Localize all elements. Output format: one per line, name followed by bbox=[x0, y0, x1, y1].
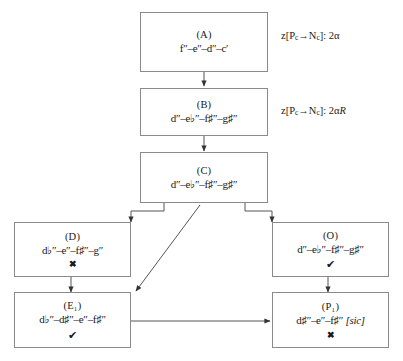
annot-2-arrow: →N bbox=[298, 105, 316, 116]
node-b-formula: d″–e♭″–f♯″–g♯″ bbox=[171, 112, 237, 126]
node-e1-formula: d♭″–d♯″–e″–f♯″ bbox=[39, 313, 105, 327]
node-e1[interactable]: (E₁) d♭″–d♯″–e″–f♯″ ✔ bbox=[14, 292, 131, 348]
node-p1-status-mark: ✖ bbox=[327, 331, 335, 340]
annot-1-prefix: z[P bbox=[281, 30, 295, 41]
node-p1[interactable]: (P₁) d♯″–e″–f♯″ [sic] ✖ bbox=[272, 292, 389, 348]
node-e1-status-mark: ✔ bbox=[68, 330, 77, 341]
diagram-canvas: (A) f″–e″–d″–c′ (B) d″–e♭″–f♯″–g♯″ (C) d… bbox=[0, 0, 403, 361]
annotation-z-pc-nc-2alpha: z[Pc→Nc]: 2α bbox=[281, 30, 340, 41]
node-o-status-mark: ✔ bbox=[326, 259, 335, 270]
annot-2-subscript-1: c bbox=[295, 108, 298, 117]
node-a-formula: f″–e″–d″–c′ bbox=[180, 42, 228, 56]
edge-c-to-e1 bbox=[136, 205, 200, 291]
annot-2-italic-suffix: R bbox=[340, 105, 346, 116]
node-p1-sic-annotation: [sic] bbox=[345, 314, 364, 326]
annotation-z-pc-nc-2alpha-r: z[Pc→Nc]: 2αR bbox=[281, 105, 346, 116]
node-p1-formula: d♯″–e″–f♯″ bbox=[296, 314, 343, 326]
node-p1-formula-line: d♯″–e″–f♯″ [sic] bbox=[296, 314, 365, 328]
node-d-status-mark: ✖ bbox=[69, 260, 77, 269]
node-b[interactable]: (B) d″–e♭″–f♯″–g♯″ bbox=[140, 88, 268, 136]
node-o-label: (O) bbox=[323, 229, 338, 242]
node-c-label: (C) bbox=[197, 164, 212, 177]
annot-1-arrow: →N bbox=[298, 30, 316, 41]
node-a[interactable]: (A) f″–e″–d″–c′ bbox=[140, 12, 268, 72]
annot-1-suffix: ]: 2α bbox=[320, 30, 340, 41]
node-o-formula: d″–e♭″–f♯″–g♯″ bbox=[297, 243, 363, 257]
node-b-label: (B) bbox=[197, 98, 212, 111]
node-d[interactable]: (D) d♭″–e″–f♯″–g″ ✖ bbox=[14, 222, 131, 277]
node-c[interactable]: (C) d″–e♭″–f♯″–g♯″ bbox=[140, 152, 268, 203]
node-d-formula: d♭″–e″–f♯″–g″ bbox=[42, 244, 103, 258]
edge-c-to-o bbox=[245, 203, 272, 222]
edge-c-to-d bbox=[131, 203, 164, 222]
annot-1-subscript-1: c bbox=[295, 33, 298, 42]
node-p1-label: (P₁) bbox=[322, 300, 339, 313]
node-o[interactable]: (O) d″–e♭″–f♯″–g♯″ ✔ bbox=[272, 222, 389, 277]
annot-1-subscript-2: c bbox=[316, 33, 319, 42]
node-c-formula: d″–e♭″–f♯″–g♯″ bbox=[171, 178, 237, 192]
annot-2-prefix: z[P bbox=[281, 105, 295, 116]
node-d-label: (D) bbox=[65, 230, 80, 243]
node-a-label: (A) bbox=[196, 28, 211, 41]
node-e1-label: (E₁) bbox=[64, 299, 82, 312]
annot-2-suffix: ]: 2α bbox=[320, 105, 340, 116]
annot-2-subscript-2: c bbox=[316, 108, 319, 117]
